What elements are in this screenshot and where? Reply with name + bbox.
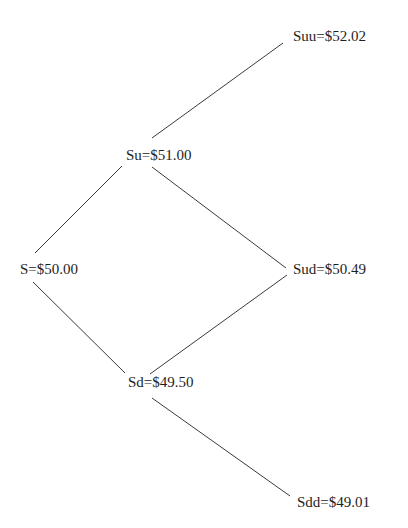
node-sd: Sd=$49.50 bbox=[128, 373, 194, 391]
node-sdd: Sdd=$49.01 bbox=[297, 493, 370, 511]
node-suu: Suu=$52.02 bbox=[293, 27, 366, 45]
node-s: S=$50.00 bbox=[20, 260, 78, 278]
edge-s-sd bbox=[33, 282, 125, 373]
node-su: Su=$51.00 bbox=[126, 146, 192, 164]
edge-s-su bbox=[35, 166, 122, 253]
edge-su-sud bbox=[152, 167, 286, 268]
node-sud: Sud=$50.49 bbox=[293, 260, 366, 278]
edge-sd-sud bbox=[150, 275, 287, 374]
edge-sd-sdd bbox=[152, 398, 290, 496]
edge-su-suu bbox=[152, 43, 283, 138]
